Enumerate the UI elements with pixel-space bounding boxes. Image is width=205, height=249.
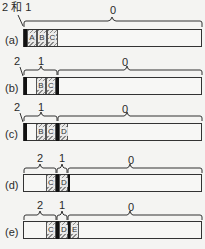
cell-empty: [27, 78, 36, 94]
cell-a: A: [27, 30, 37, 46]
memory-bar: C D: [23, 174, 202, 192]
brace-label-0: 0: [110, 5, 116, 16]
row-label: (b): [5, 82, 18, 94]
cell-c: C: [46, 78, 56, 94]
cell-d: D: [59, 124, 68, 140]
cell-c: C: [46, 222, 56, 238]
braces: [0, 96, 205, 126]
cell-c: C: [46, 175, 56, 191]
cell-d: D: [59, 175, 68, 191]
cell-d: D: [59, 222, 68, 238]
cell-b: B: [37, 30, 47, 46]
row-label: (a): [5, 34, 18, 46]
cell-c: C: [46, 124, 56, 140]
brace-0: [0, 0, 205, 30]
row-label: (d): [5, 179, 18, 191]
cell-empty: [27, 124, 36, 140]
cell-e: E: [70, 222, 79, 238]
boundary-marker: [68, 174, 70, 192]
braces: [0, 50, 205, 80]
row-label: (e): [5, 226, 18, 238]
cell-c: C: [47, 30, 58, 46]
row-label: (c): [5, 128, 18, 140]
cell-b: B: [36, 124, 46, 140]
boundary-marker: [56, 77, 59, 95]
memory-bar: C D E: [23, 221, 202, 239]
memory-bar: B C: [23, 77, 202, 95]
memory-bar: A B C: [23, 29, 202, 47]
memory-bar: B C D: [23, 123, 202, 141]
cell-b: B: [36, 78, 46, 94]
